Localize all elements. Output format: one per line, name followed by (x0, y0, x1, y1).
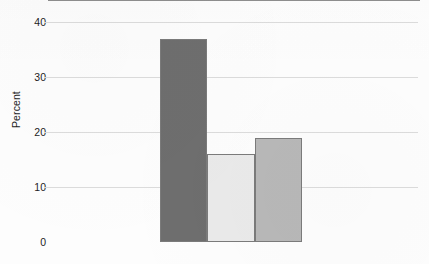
bar-chart: Percent 40 30 20 10 0 (0, 0, 429, 264)
plot-area (0, 0, 429, 264)
bar-series-0 (160, 39, 207, 243)
bar-series-1 (207, 154, 254, 242)
bar-series-2 (255, 138, 302, 243)
